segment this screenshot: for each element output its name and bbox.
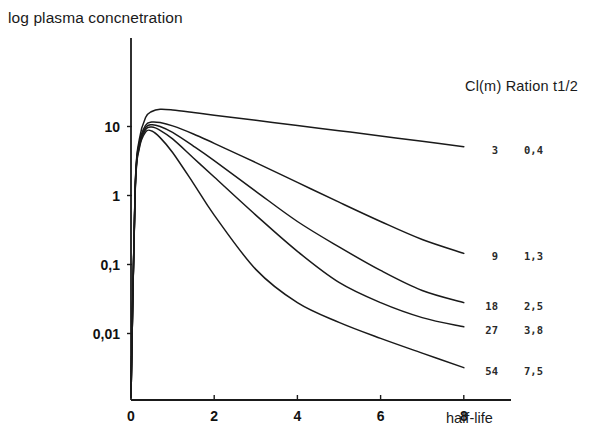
y-tick-label-2: 0,1 <box>40 257 120 273</box>
legend-cl-value: 54 <box>472 365 498 377</box>
legend-ratio-value: 0,4 <box>524 144 558 156</box>
legend-ratio-value: 1,3 <box>524 250 558 262</box>
legend-cl-value: 18 <box>472 300 498 312</box>
y-tick-label-1: 1 <box>40 188 120 204</box>
chart-figure: log plasma concnetration 1010,10,01 0246… <box>0 0 601 445</box>
curve-series-27 <box>131 127 464 397</box>
plot-canvas <box>0 0 601 445</box>
curve-series-3 <box>131 109 464 397</box>
legend-ratio-value: 3,8 <box>524 324 558 336</box>
x-axis-title: half-life <box>446 410 493 426</box>
legend-cl-value: 3 <box>472 144 498 156</box>
legend-cl-value: 27 <box>472 324 498 336</box>
x-tick-label-0: 0 <box>127 408 135 424</box>
x-tick-label-3: 6 <box>377 408 385 424</box>
data-curves <box>131 109 464 397</box>
x-tick-label-2: 4 <box>293 408 301 424</box>
legend-ratio-value: 2,5 <box>524 300 558 312</box>
y-tick-label-3: 0,01 <box>40 326 120 342</box>
y-tick-label-0: 10 <box>40 119 120 135</box>
curve-series-54 <box>131 130 464 397</box>
legend-ratio-value: 7,5 <box>524 365 558 377</box>
x-tick-label-1: 2 <box>210 408 218 424</box>
legend-header: Cl(m) Ration t1/2 <box>465 78 578 94</box>
legend-cl-value: 9 <box>472 250 498 262</box>
curve-series-9 <box>131 122 464 397</box>
axis-lines <box>131 38 511 400</box>
